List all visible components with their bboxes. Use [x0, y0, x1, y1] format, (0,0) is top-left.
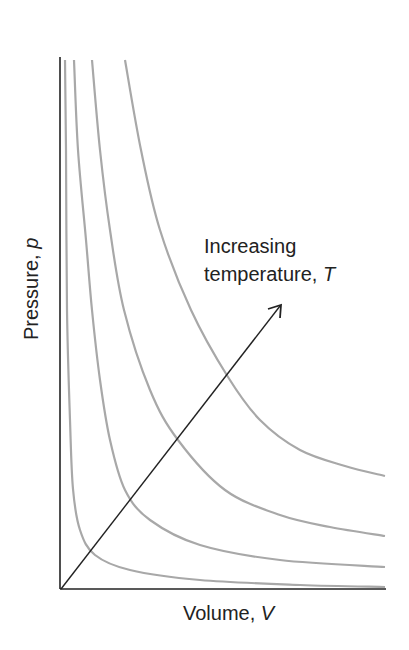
x-axis-label-variable: V: [261, 602, 274, 624]
annotation-line-2-variable: T: [323, 263, 335, 285]
annotation-line-2: temperature, T: [204, 260, 335, 288]
annotation-line-2-text: temperature,: [204, 263, 323, 285]
isotherm-curve-2: [74, 60, 385, 567]
annotation-line-1: Increasing: [204, 232, 335, 260]
y-axis-label-text: Pressure,: [20, 249, 42, 340]
x-axis-label: Volume, V: [183, 602, 274, 625]
temperature-annotation: Increasing temperature, T: [204, 232, 335, 288]
isotherm-curves: [65, 60, 385, 587]
increasing-temperature-arrow: [61, 305, 281, 589]
isotherm-curve-1: [65, 60, 385, 587]
isotherm-diagram: [0, 0, 409, 650]
x-axis-label-text: Volume,: [183, 602, 261, 624]
y-axis-label-variable: p: [20, 238, 42, 249]
y-axis-label: Pressure, p: [20, 238, 43, 340]
